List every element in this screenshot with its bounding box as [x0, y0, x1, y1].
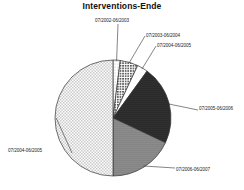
pie-chart-figure: Interventions-Ende: [0, 0, 244, 190]
leader-line-0: [117, 24, 118, 61]
pie-slice-label-07-2002-06-2003: 07/2002-06/2003: [95, 18, 129, 23]
leader-line-3: [168, 104, 198, 110]
pie-slice-label-07-2006-06-2007: 07/2006-06/2007: [176, 167, 210, 172]
pie-slice-label-07-2005-06-2006: 07/2005-06/2006: [199, 106, 233, 111]
pie-slice-label-07-2004-06-2005-top: 07/2004-06/2005: [157, 43, 191, 48]
pie-chart-canvas: [0, 0, 244, 190]
leader-line-1: [129, 36, 145, 63]
pie-slice-label-07-2004-06-2005-left: 07/2004-06/2005: [8, 148, 42, 153]
pie-slice-5: [55, 60, 113, 176]
pie-slice-label-07-2003-06-2004: 07/2003-06/2004: [146, 33, 180, 38]
leader-line-4: [144, 166, 176, 168]
pie-slices-group: [55, 60, 171, 176]
leader-line-2: [142, 46, 156, 69]
